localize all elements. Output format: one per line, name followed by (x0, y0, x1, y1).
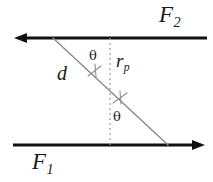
label-theta-upper: θ (89, 49, 97, 62)
label-F2-subscript: 2 (173, 14, 180, 30)
label-F2-base: F (159, 2, 173, 27)
label-F2: F2 (159, 3, 180, 26)
label-rp-base: r (116, 50, 123, 71)
label-rp-subscript: p (124, 61, 130, 74)
top-line-arrowhead-left-icon (14, 33, 27, 43)
label-F1: F1 (32, 150, 53, 173)
label-rp: rp (116, 51, 129, 70)
figure-canvas: F2 F1 rp d θ θ (0, 0, 213, 182)
bottom-line-arrowhead-right-icon (192, 140, 205, 150)
label-F1-base: F (32, 149, 46, 174)
label-theta-lower: θ (113, 110, 121, 123)
label-d: d (57, 63, 67, 83)
label-F1-subscript: 1 (46, 161, 53, 177)
angle-tick-upper-icon (88, 64, 101, 77)
angle-tick-lower-icon (113, 91, 127, 104)
